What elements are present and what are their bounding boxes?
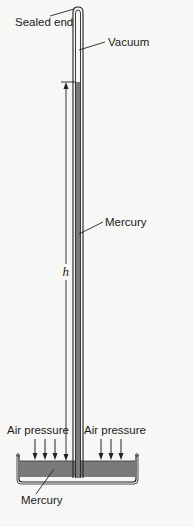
arrow-up-icon	[64, 82, 69, 89]
air-pressure-right-arrows	[99, 439, 124, 460]
sealed-end-leader	[50, 9, 74, 16]
mercury-column	[76, 82, 81, 478]
mercury-dish-label: Mercury	[21, 494, 63, 506]
barometer-diagram: Sealed end Vacuum Mercury h Air pressure…	[0, 0, 193, 527]
sealed-end-label: Sealed end	[15, 16, 73, 28]
arrow-down-icon	[64, 454, 69, 461]
vacuum-label: Vacuum	[108, 36, 149, 48]
glass-tube	[73, 7, 83, 478]
air-pressure-left-label: Air pressure	[7, 424, 69, 436]
air-pressure-right-label: Air pressure	[84, 424, 146, 436]
air-pressure-left-arrows	[33, 439, 58, 460]
mercury-column-label: Mercury	[105, 216, 147, 228]
height-label: h	[63, 264, 70, 279]
